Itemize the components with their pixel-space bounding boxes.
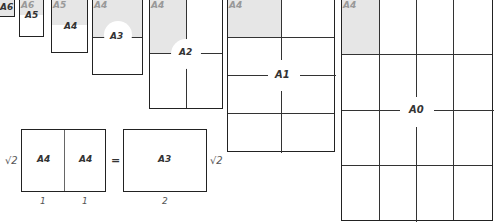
sheet-a2-label: A2 <box>179 47 192 57</box>
height-label-left: √2 <box>5 155 18 166</box>
sheet-a0-corner: A4 <box>343 0 356 10</box>
sheet-a2-corner: A4 <box>151 0 164 10</box>
sheet-a3-label: A3 <box>110 31 123 41</box>
sheet-a5-label: A5 <box>25 10 38 20</box>
sheet-a6: A6 <box>0 0 15 17</box>
sheet-a5: A6 A5 <box>19 0 44 37</box>
sheet-a0: A4 A0 <box>341 0 493 221</box>
equation-a4-right: A4 <box>79 154 92 164</box>
sheet-a4-label: A4 <box>64 21 77 31</box>
equation-left-box: A4 A4 <box>21 129 106 192</box>
sheet-a4: A5 A4 <box>51 0 88 53</box>
sheet-a3: A4 A3 <box>92 0 143 75</box>
height-label-right: √2 <box>210 155 223 166</box>
equation-a3-label: A3 <box>158 154 171 164</box>
sheet-a0-label: A0 <box>409 104 424 115</box>
sheet-a1-corner: A4 <box>229 0 242 10</box>
sheet-a2: A4 A2 <box>149 0 223 109</box>
width-label-2: 1 <box>82 196 88 206</box>
sheet-a1: A4 A1 <box>227 0 335 152</box>
sheet-a5-corner: A6 <box>21 0 34 10</box>
equation-a4-left: A4 <box>37 154 50 164</box>
width-label-1: 1 <box>40 196 46 206</box>
sheet-a4-corner: A5 <box>53 0 66 10</box>
sheet-a3-corner: A4 <box>94 0 107 10</box>
sheet-a6-label: A6 <box>0 2 13 12</box>
equation-a3-box: A3 <box>123 129 207 192</box>
sheet-a1-label: A1 <box>275 69 290 80</box>
width-label-total: 2 <box>162 196 168 206</box>
equals-sign: = <box>111 154 120 167</box>
